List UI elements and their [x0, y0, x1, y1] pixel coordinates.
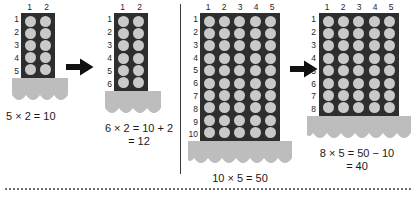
array-dot: [219, 65, 230, 76]
arrow-right-icon: [66, 58, 94, 76]
panel-divider: [180, 4, 181, 174]
array-dot: [384, 40, 395, 51]
array-dot: [338, 90, 349, 101]
row-label: 8: [186, 103, 198, 116]
row-label: 3: [12, 39, 19, 52]
worksheet-canvas: 1 2 1 2 3 4 5: [0, 0, 415, 198]
array-dot: [204, 16, 215, 27]
row-label: 7: [186, 90, 198, 103]
array-dot: [338, 102, 349, 113]
array-dot: [133, 28, 144, 39]
array-dot: [250, 90, 261, 101]
array-dot: [234, 65, 245, 76]
column-label: 1: [114, 2, 131, 12]
array-6x2-row-labels: 1 2 3 4 5 6: [105, 13, 112, 91]
equation-line-1: 8 × 5 = 50 − 10: [320, 147, 394, 159]
array-dot: [369, 40, 380, 51]
array-dot: [265, 40, 276, 51]
array-dot: [265, 28, 276, 39]
array-dot: [40, 28, 51, 39]
equation-line-1: 5 × 2 = 10: [6, 110, 56, 122]
row-label: 5: [12, 65, 19, 78]
row-label: 7: [305, 90, 316, 103]
array-dot: [118, 65, 129, 76]
row-label: 1: [186, 13, 198, 26]
array-dot: [250, 28, 261, 39]
array-dot: [384, 53, 395, 64]
array-dot: [204, 65, 215, 76]
array-dot: [353, 90, 364, 101]
row-label: 4: [12, 52, 19, 65]
array-dot: [204, 28, 215, 39]
array-dot: [265, 78, 276, 89]
array-8x5-block: [319, 13, 399, 116]
array-dot: [219, 102, 230, 113]
row-label: 4: [105, 52, 112, 65]
array-dot: [369, 53, 380, 64]
array-dot: [369, 102, 380, 113]
array-8x5-ground: [307, 116, 411, 143]
array-5x2-column-labels: 1 2: [21, 2, 55, 12]
array-dot: [369, 78, 380, 89]
row-label: 3: [305, 39, 316, 52]
array-dot: [250, 16, 261, 27]
column-label: 2: [335, 2, 351, 12]
equation-line-2: = 12: [93, 135, 185, 148]
array-dot: [234, 102, 245, 113]
array-dot: [323, 40, 334, 51]
array-dot: [25, 52, 36, 63]
array-dot: [118, 40, 129, 51]
array-8x5-equation: 8 × 5 = 50 − 10 = 40: [301, 147, 413, 173]
array-dot: [234, 40, 245, 51]
row-label: 4: [186, 51, 198, 64]
array-10x5-block: [200, 13, 280, 141]
row-label: 9: [186, 115, 198, 128]
array-5x2-block: [21, 13, 55, 78]
array-dot: [133, 53, 144, 64]
array-dot: [250, 53, 261, 64]
array-dot: [133, 16, 144, 27]
array-dot: [234, 78, 245, 89]
array-dot: [204, 78, 215, 89]
array-dot: [219, 40, 230, 51]
array-6x2-ground: [105, 91, 161, 118]
row-label: 3: [186, 39, 198, 52]
array-dot: [384, 16, 395, 27]
array-dot: [353, 78, 364, 89]
equation-line-1: 6 × 2 = 10 + 2: [105, 122, 173, 134]
array-dot: [250, 78, 261, 89]
array-dot: [338, 28, 349, 39]
array-dot: [40, 16, 51, 27]
array-8x5-column-labels: 1 2 3 4 5: [319, 2, 399, 12]
row-label: 10: [186, 128, 198, 141]
column-label: 1: [319, 2, 335, 12]
array-dot: [265, 102, 276, 113]
array-5x2-row-labels: 1 2 3 4 5: [12, 13, 19, 78]
row-label: 2: [105, 26, 112, 39]
row-label: 3: [105, 39, 112, 52]
array-dot: [250, 65, 261, 76]
bottom-dotted-rule: [4, 188, 411, 190]
array-dot: [369, 65, 380, 76]
column-label: 1: [200, 2, 216, 12]
row-label: 5: [186, 64, 198, 77]
array-dot: [265, 16, 276, 27]
array-dot: [219, 90, 230, 101]
array-dot: [338, 65, 349, 76]
column-label: 2: [216, 2, 232, 12]
column-label: 3: [351, 2, 367, 12]
array-dot: [204, 115, 215, 126]
row-label: 1: [105, 13, 112, 26]
array-dot: [353, 28, 364, 39]
array-dot: [323, 65, 334, 76]
array-dot: [353, 16, 364, 27]
array-dot: [323, 102, 334, 113]
column-label: 4: [248, 2, 264, 12]
array-dot: [204, 53, 215, 64]
column-label: 4: [367, 2, 383, 12]
array-6x2-equation: 6 × 2 = 10 + 2 = 12: [93, 122, 185, 148]
array-dot: [384, 65, 395, 76]
array-dot: [323, 78, 334, 89]
equation-line-1: 10 × 5 = 50: [212, 172, 268, 184]
array-dot: [219, 115, 230, 126]
